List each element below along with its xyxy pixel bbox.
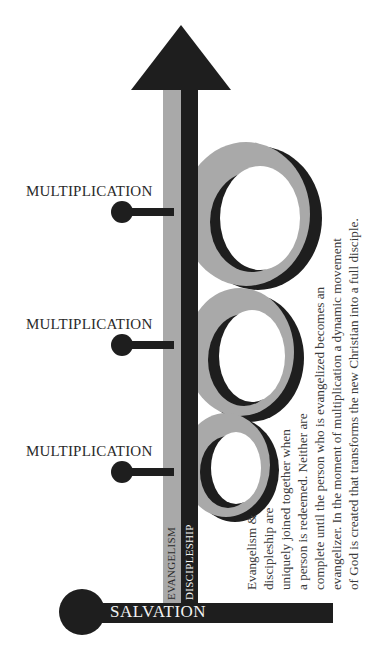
up-arrow-icon: [131, 25, 231, 90]
multiplication-label-3: MULTIPLICATION: [26, 443, 152, 460]
salvation-label: SALVATION: [110, 602, 206, 622]
description-line: of God is created that transforms the ne…: [345, 130, 362, 590]
multiplication-label-1: MULTIPLICATION: [26, 183, 152, 200]
description-line: a person is redeemed. Neither are: [294, 130, 311, 590]
evangelism-label: EVANGELISM: [165, 527, 177, 600]
description-line: uniquely joined together when: [277, 130, 294, 590]
discipleship-label: DISCIPLESHIP: [183, 524, 195, 600]
description-line: Evangelism &: [243, 130, 260, 590]
description-line: discipleship are: [260, 130, 277, 590]
description-line: evangelizer. In the moment of multiplica…: [328, 130, 345, 590]
description-line: complete until the person who is evangel…: [311, 130, 328, 590]
multiplication-label-2: MULTIPLICATION: [26, 316, 152, 333]
description-paragraph: Evangelism & discipleship are uniquely j…: [243, 130, 362, 590]
